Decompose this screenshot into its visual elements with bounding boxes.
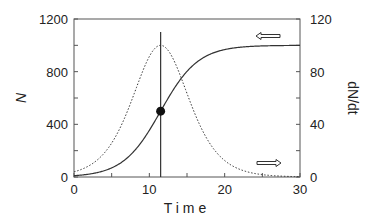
y-right-tick-label: 40 (310, 117, 324, 132)
y-axis-right-label: dN/dt (345, 81, 361, 115)
y-right-tick-label: 120 (310, 12, 332, 27)
N-curve (74, 45, 300, 175)
plot-frame (74, 19, 300, 177)
axis-ticks: 01020300400800120004080120 (39, 12, 332, 197)
arrow-left-icon (256, 33, 280, 40)
x-tick-label: 0 (70, 182, 77, 197)
y-left-tick-label: 800 (46, 65, 68, 80)
annotations (156, 32, 281, 177)
y-axis-left-label: N (13, 92, 29, 103)
plot-border (74, 19, 300, 177)
y-left-tick-label: 1200 (39, 12, 68, 27)
x-tick-label: 20 (217, 182, 231, 197)
inflection-point (156, 107, 165, 116)
y-left-tick-label: 400 (46, 117, 68, 132)
dNdt-curve (74, 45, 300, 176)
y-right-tick-label: 80 (310, 65, 324, 80)
arrow-right-icon (257, 160, 281, 167)
logistic-growth-chart: 01020300400800120004080120 Time N dN/dt (0, 0, 368, 224)
y-left-tick-label: 0 (61, 170, 68, 185)
x-tick-label: 30 (293, 182, 307, 197)
curves (74, 45, 300, 176)
y-right-tick-label: 0 (310, 170, 317, 185)
x-tick-label: 10 (142, 182, 156, 197)
x-axis-label: Time (164, 200, 211, 216)
